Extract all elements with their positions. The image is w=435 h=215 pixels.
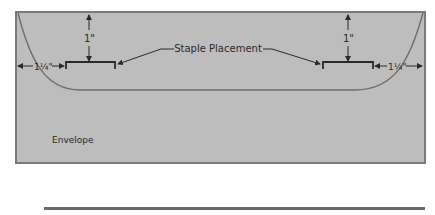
staple-placement-label: Staple Placement	[174, 43, 262, 54]
left-top-margin-label: 1"	[84, 33, 95, 44]
right-top-margin-label: 1"	[343, 33, 354, 44]
left-side-margin-label: 1¼"	[34, 62, 53, 72]
bottom-rule	[44, 207, 425, 210]
right-side-margin-label: 1¼"	[388, 62, 407, 72]
staple-placement-diagram: 1" 1" 1¼" 1¼" Staple Placement Envelope	[0, 0, 435, 215]
envelope-label: Envelope	[52, 135, 94, 145]
